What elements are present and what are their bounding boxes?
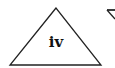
diagram-canvas: iv [0,0,115,68]
partial-shape-side-edge [107,10,115,19]
triangle-label: iv [49,33,65,51]
